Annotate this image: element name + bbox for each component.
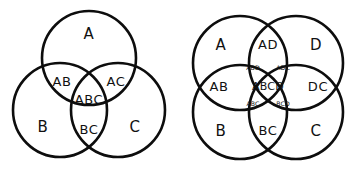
four-set-venn-svg: A D B C AD AB DC BC ABD ADC ABC BCD ABCD (0, 0, 357, 174)
region-label-c-2: C (310, 122, 321, 140)
four-set-venn-diagram: A D B C AD AB DC BC ABD ADC ABC BCD ABCD (0, 0, 357, 174)
region-label-abc-2: ABC (247, 100, 260, 107)
region-label-ab-2: AB (209, 79, 228, 94)
region-label-adc: ADC (276, 64, 290, 71)
region-label-bc-2: BC (259, 123, 278, 138)
venn-diagram-canvas: A B C AB AC ABC BC A D B C A (0, 0, 357, 174)
region-label-bcd: BCD (276, 100, 290, 107)
region-label-a-2: A (216, 36, 227, 54)
four-set-region-labels: A D B C AD AB DC BC ABD ADC ABC BCD ABCD (209, 36, 328, 140)
region-label-ad: AD (258, 37, 278, 52)
region-label-dc: DC (308, 79, 328, 94)
region-label-abd: ABD (246, 64, 260, 71)
region-label-abcd: ABCD (252, 80, 284, 93)
circle-set-d-2 (249, 16, 343, 110)
region-label-b-2: B (216, 122, 227, 140)
region-label-d-2: D (310, 36, 322, 54)
circle-set-a-2 (193, 16, 287, 110)
